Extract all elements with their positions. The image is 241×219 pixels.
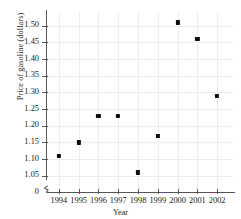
- x-axis-tick: [178, 189, 179, 194]
- y-axis-tick-label: 0: [0, 188, 42, 196]
- y-axis-tick: [42, 42, 48, 43]
- y-axis-tick: [42, 126, 48, 127]
- y-axis-tick: [42, 92, 48, 93]
- y-axis-tick-label: 1.15: [0, 138, 42, 146]
- gridline-vertical: [158, 12, 159, 192]
- y-axis-tick: [42, 26, 48, 27]
- x-axis-tick: [138, 189, 139, 194]
- y-axis-tick-label: 1.10: [0, 155, 42, 163]
- gridline-horizontal: [47, 26, 233, 27]
- gridline-vertical: [98, 12, 99, 192]
- gridline-horizontal: [47, 92, 233, 93]
- x-axis-tick: [59, 189, 60, 194]
- data-point: [116, 114, 120, 118]
- gridline-horizontal: [47, 59, 233, 60]
- x-axis-tick: [197, 189, 198, 194]
- data-point: [195, 37, 199, 41]
- data-point: [215, 94, 219, 98]
- gridline-vertical: [118, 12, 119, 192]
- gridline-horizontal: [47, 176, 233, 177]
- data-point: [77, 140, 81, 144]
- gridline-vertical: [217, 12, 218, 192]
- y-axis-tick-label: 1.50: [0, 21, 42, 29]
- y-axis-tick-label: 1.30: [0, 88, 42, 96]
- y-axis-tick: [42, 159, 48, 160]
- y-axis-tick: [42, 176, 48, 177]
- data-point: [57, 154, 61, 158]
- y-axis-tick-label: 1.40: [0, 55, 42, 63]
- x-axis-tick: [158, 189, 159, 194]
- gridline-horizontal: [47, 159, 233, 160]
- x-axis-tick: [98, 189, 99, 194]
- data-point: [156, 134, 160, 138]
- scatter-plot-figure: Price of gasoline (dollars) 1.501.451.40…: [0, 0, 241, 219]
- y-axis-tick: [42, 76, 48, 77]
- x-axis-tick: [79, 189, 80, 194]
- y-axis-tick: [42, 142, 48, 143]
- data-point: [176, 20, 180, 24]
- y-axis-tick-label: 1.25: [0, 105, 42, 113]
- x-axis-tick: [217, 189, 218, 194]
- gridline-horizontal: [47, 126, 233, 127]
- gridline-vertical: [138, 12, 139, 192]
- y-axis-tick-label: 1.20: [0, 121, 42, 129]
- y-axis-tick: [42, 59, 48, 60]
- x-axis-tick-label: 2002: [204, 196, 230, 205]
- gridline-vertical: [79, 12, 80, 192]
- x-axis-tick: [118, 189, 119, 194]
- y-axis-tick-label: 1.35: [0, 71, 42, 79]
- data-point: [136, 170, 140, 174]
- x-axis-line: [47, 192, 235, 193]
- y-axis-tick-label: 1.05: [0, 171, 42, 179]
- y-axis-line: [46, 10, 47, 180]
- gridline-vertical: [59, 12, 60, 192]
- gridline-horizontal: [47, 76, 233, 77]
- y-axis-tick: [42, 109, 48, 110]
- gridline-horizontal: [47, 109, 233, 110]
- gridline-horizontal: [47, 42, 233, 43]
- gridline-vertical: [178, 12, 179, 192]
- data-point: [96, 114, 100, 118]
- y-axis-tick-label: 1.45: [0, 38, 42, 46]
- x-axis-title: Year: [0, 208, 241, 217]
- plot-area: [47, 12, 233, 192]
- gridline-horizontal: [47, 142, 233, 143]
- axis-break-icon: [41, 180, 55, 194]
